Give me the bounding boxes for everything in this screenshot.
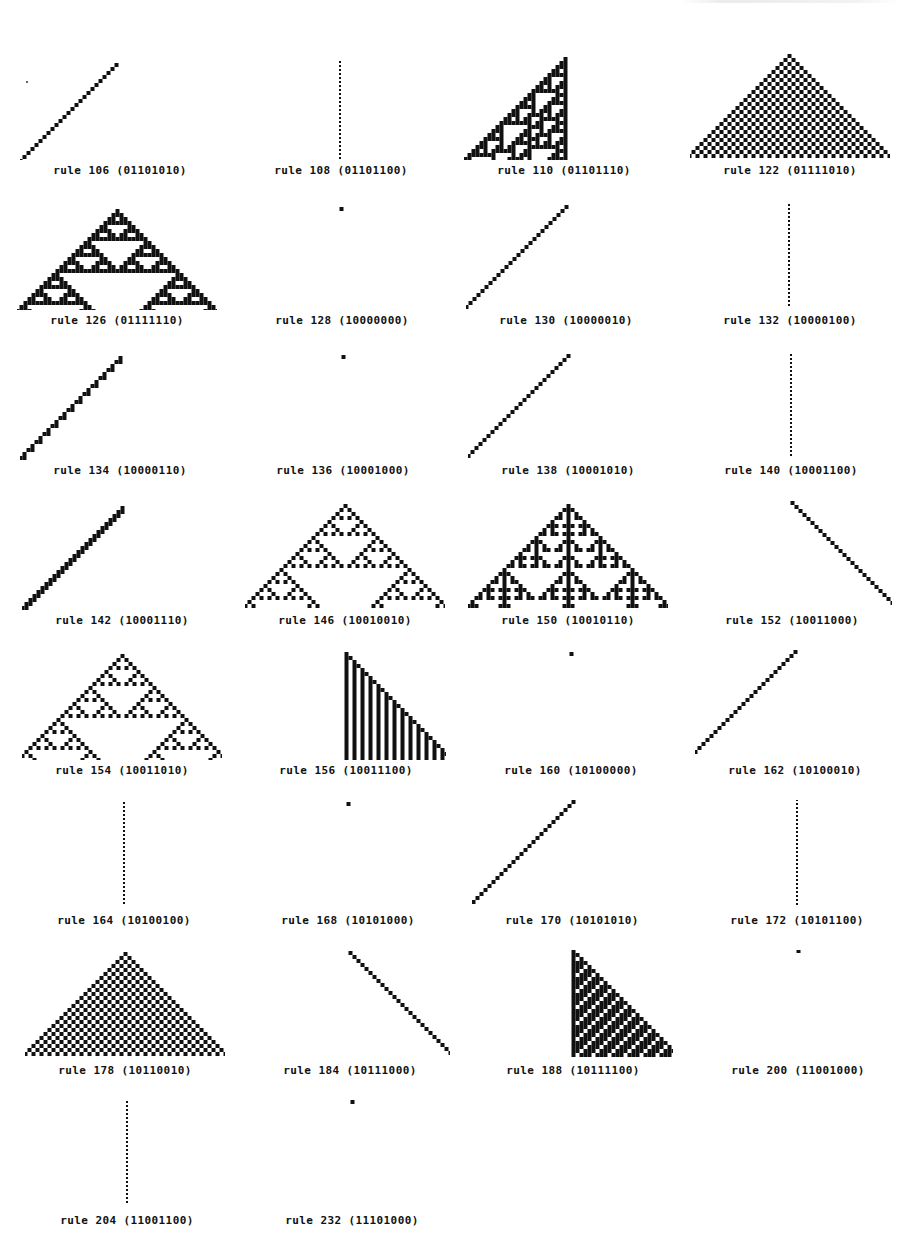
ca-panel: rule 200 (11001000): [698, 950, 898, 1090]
page-header-smudge: [680, 0, 900, 3]
ca-caption: rule 200 (11001000): [698, 1064, 898, 1077]
ca-caption: rule 170 (10101010): [472, 914, 672, 927]
ca-pattern-image: [246, 650, 446, 760]
ca-pattern-image: [697, 800, 897, 910]
ca-panel: rule 138 (10001010): [468, 350, 668, 490]
ca-caption: rule 164 (10100100): [24, 914, 224, 927]
ca-pattern-image: [20, 350, 220, 460]
ca-caption: rule 154 (10011010): [22, 764, 222, 777]
ca-pattern-image: [250, 950, 450, 1060]
ca-panel: rule 136 (10001000): [243, 350, 443, 490]
ca-pattern-image: [24, 800, 224, 910]
ca-caption: rule 150 (10010110): [468, 614, 668, 627]
ca-pattern-image: [692, 500, 892, 610]
ca-panel: rule 164 (10100100): [24, 800, 224, 940]
ca-panel: rule 160 (10100000): [471, 650, 671, 790]
ca-pattern-image: [690, 50, 890, 160]
ca-panel: rule 132 (10000100): [690, 200, 890, 340]
ca-pattern-image: [22, 650, 222, 760]
ca-caption: rule 132 (10000100): [690, 314, 890, 327]
ca-caption: rule 108 (01101100): [241, 164, 441, 177]
ca-panel: rule 188 (10111100): [473, 950, 673, 1090]
ca-caption: rule 232 (11101000): [252, 1214, 452, 1227]
ca-pattern-image: [690, 200, 890, 310]
ca-panel: rule 172 (10101100): [697, 800, 897, 940]
ca-caption: rule 168 (10101000): [248, 914, 448, 927]
ca-panel: rule 152 (10011000): [692, 500, 892, 640]
ca-panel: rule 106 (01101010): [20, 50, 220, 190]
ca-pattern-image: [695, 650, 895, 760]
ca-panel: rule 232 (11101000): [252, 1100, 452, 1240]
ca-pattern-image: [25, 950, 225, 1060]
ca-caption: rule 172 (10101100): [697, 914, 897, 927]
ca-caption: rule 140 (10001100): [691, 464, 891, 477]
ca-pattern-image: [464, 50, 664, 160]
ca-panel: rule 134 (10000110): [20, 350, 220, 490]
ca-caption: rule 162 (10100010): [695, 764, 895, 777]
ca-panel: rule 128 (10000000): [242, 200, 442, 340]
ca-panel: rule 204 (11001100): [27, 1100, 227, 1240]
ca-panel: rule 170 (10101010): [472, 800, 672, 940]
ca-panel: rule 154 (10011010): [22, 650, 222, 790]
ca-caption: rule 138 (10001010): [468, 464, 668, 477]
ca-pattern-image: [472, 800, 672, 910]
ca-panel: rule 110 (01101110): [464, 50, 664, 190]
ca-panel: rule 130 (10000010): [466, 200, 666, 340]
ca-caption: rule 184 (10111000): [250, 1064, 450, 1077]
ca-pattern-image: [468, 500, 668, 610]
ca-caption: rule 146 (10010010): [245, 614, 445, 627]
ca-pattern-image: [22, 500, 222, 610]
ca-caption: rule 122 (01111010): [690, 164, 890, 177]
ca-panel: rule 150 (10010110): [468, 500, 668, 640]
ca-pattern-image: [252, 1100, 452, 1210]
ca-panel: rule 178 (10110010): [25, 950, 225, 1090]
ca-pattern-image: [241, 50, 441, 160]
ca-caption: rule 160 (10100000): [471, 764, 671, 777]
ca-caption: rule 188 (10111100): [473, 1064, 673, 1077]
ca-pattern-image: [471, 650, 671, 760]
ca-panel: rule 126 (01111110): [17, 200, 217, 340]
ca-caption: rule 156 (10011100): [246, 764, 446, 777]
ca-pattern-image: [473, 950, 673, 1060]
ca-caption: rule 204 (11001100): [27, 1214, 227, 1227]
ca-pattern-image: [245, 500, 445, 610]
ca-pattern-image: [468, 350, 668, 460]
ca-caption: rule 110 (01101110): [464, 164, 664, 177]
ca-panel: rule 156 (10011100): [246, 650, 446, 790]
ca-pattern-image: [243, 350, 443, 460]
ca-caption: rule 130 (10000010): [466, 314, 666, 327]
ca-caption: rule 134 (10000110): [20, 464, 220, 477]
ca-panel: rule 168 (10101000): [248, 800, 448, 940]
ca-pattern-image: [20, 50, 220, 160]
ca-caption: rule 142 (10001110): [22, 614, 222, 627]
ca-caption: rule 178 (10110010): [25, 1064, 225, 1077]
ca-pattern-image: [17, 200, 217, 310]
ca-pattern-image: [698, 950, 898, 1060]
ca-panel: rule 108 (01101100): [241, 50, 441, 190]
ca-caption: rule 126 (01111110): [17, 314, 217, 327]
ca-panel: rule 184 (10111000): [250, 950, 450, 1090]
ca-panel: rule 142 (10001110): [22, 500, 222, 640]
ca-pattern-image: [691, 350, 891, 460]
ca-caption: rule 152 (10011000): [692, 614, 892, 627]
ca-caption: rule 128 (10000000): [242, 314, 442, 327]
ca-pattern-image: [242, 200, 442, 310]
ca-panel: rule 162 (10100010): [695, 650, 895, 790]
ca-pattern-image: [248, 800, 448, 910]
ca-pattern-image: [466, 200, 666, 310]
ca-panel: rule 140 (10001100): [691, 350, 891, 490]
ca-panel: rule 122 (01111010): [690, 50, 890, 190]
ca-pattern-image: [27, 1100, 227, 1210]
ca-caption: rule 106 (01101010): [20, 164, 220, 177]
ca-panel: rule 146 (10010010): [245, 500, 445, 640]
ca-caption: rule 136 (10001000): [243, 464, 443, 477]
